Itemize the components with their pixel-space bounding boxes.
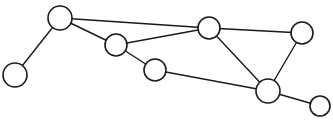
node-layer bbox=[3, 6, 330, 116]
graph-node-n5[interactable] bbox=[198, 17, 220, 39]
graph-edge-n2-n5 bbox=[60, 18, 209, 28]
graph-edge-n5-n6 bbox=[209, 28, 302, 33]
graph-diagram-svg bbox=[0, 0, 333, 124]
graph-node-n6[interactable] bbox=[291, 22, 313, 44]
graph-node-n4[interactable] bbox=[144, 59, 166, 81]
graph-edge-n3-n5 bbox=[116, 28, 209, 45]
graph-node-n7[interactable] bbox=[256, 79, 280, 103]
graph-diagram-canvas bbox=[0, 0, 333, 124]
graph-node-n1[interactable] bbox=[3, 63, 27, 87]
graph-node-n8[interactable] bbox=[310, 96, 330, 116]
graph-node-n3[interactable] bbox=[105, 34, 127, 56]
graph-node-n2[interactable] bbox=[48, 6, 72, 30]
